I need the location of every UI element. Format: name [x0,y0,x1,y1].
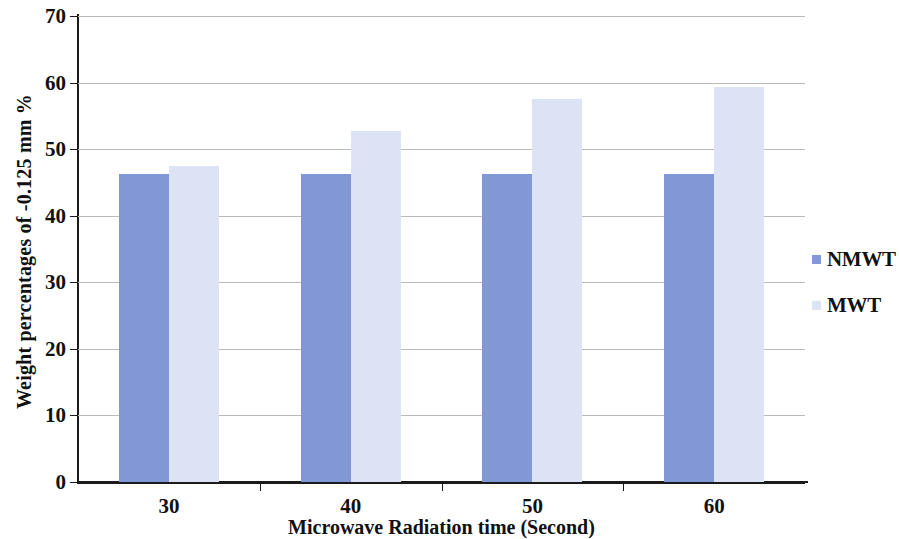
y-tick-mark-0 [70,482,78,483]
y-tick-mark-60 [70,83,78,84]
y-tick-label-10: 10 [45,403,66,428]
x-tick-label-50: 50 [522,494,543,519]
y-tick-mark-70 [70,16,78,17]
bar-chart: Weight percentages of -0.125 mm % 010203… [0,0,899,539]
bar-nmwt-60 [664,174,714,482]
y-tick-label-50: 50 [45,137,66,162]
y-tick-mark-50 [70,149,78,150]
gridline-70 [78,16,805,17]
y-tick-label-70: 70 [45,4,66,29]
y-tick-mark-10 [70,415,78,416]
y-tick-label-30: 30 [45,270,66,295]
bar-nmwt-40 [301,174,351,482]
x-tick-mark-50 [442,482,443,491]
y-tick-label-40: 40 [45,203,66,228]
bar-mwt-60 [714,87,764,482]
x-tick-mark-40 [260,482,261,491]
legend-swatch-mwt [812,301,821,310]
x-tick-label-60: 60 [704,494,725,519]
y-axis-title: Weight percentages of -0.125 mm % [13,42,36,462]
chart-legend: NMWTMWT [812,236,898,328]
bar-nmwt-30 [119,174,169,482]
bar-nmwt-50 [482,174,532,482]
x-axis-title: Microwave Radiation time (Second) [78,516,805,539]
gridline-60 [78,83,805,84]
legend-label-nmwt: NMWT [827,247,896,272]
y-tick-label-0: 0 [56,470,67,495]
legend-label-mwt: MWT [827,293,881,318]
x-tick-label-40: 40 [340,494,361,519]
y-tick-mark-40 [70,216,78,217]
y-tick-mark-30 [70,282,78,283]
legend-swatch-nmwt [812,255,821,264]
bar-mwt-40 [351,131,401,482]
x-tick-mark-60 [623,482,624,491]
gridline-50 [78,149,805,150]
y-tick-label-60: 60 [45,70,66,95]
legend-item-mwt: MWT [812,282,898,328]
x-tick-label-30: 30 [158,494,179,519]
legend-item-nmwt: NMWT [812,236,898,282]
plot-area: 010203040506070 [78,16,805,482]
y-tick-label-20: 20 [45,336,66,361]
bar-mwt-50 [532,99,582,482]
bar-mwt-30 [169,166,219,482]
y-tick-mark-20 [70,349,78,350]
